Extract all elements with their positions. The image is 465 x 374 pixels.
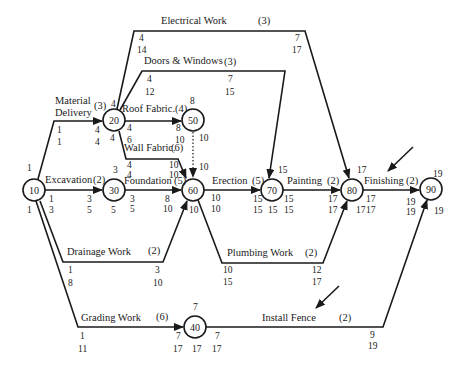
label-material-line1: Material	[55, 96, 91, 107]
time-grading-ls: 11	[78, 345, 87, 355]
label-roof-fabric: Roof Fabric.	[122, 104, 175, 115]
node-20-late: 4	[110, 134, 115, 144]
time-excavation-es: 1	[49, 195, 54, 205]
node-label-40: 40	[190, 322, 200, 333]
time-electrical-lf: 17	[292, 46, 302, 56]
time-fence-es: 7	[215, 332, 220, 342]
pointer-arrow-finishing	[388, 147, 413, 171]
arrow-material-delivery	[38, 121, 102, 179]
node-10-late: 1	[27, 206, 32, 216]
time-roof-lf: 10	[175, 136, 185, 146]
node-label-80: 80	[347, 185, 357, 196]
time-electrical-ef: 7	[295, 34, 300, 44]
time-roof-ef: 8	[176, 124, 181, 134]
node-70-early: 15	[278, 166, 288, 176]
time-roof-es: 4	[127, 124, 132, 134]
node-label-90: 90	[426, 184, 436, 195]
pointer-arrow-install-fence	[316, 286, 339, 308]
time-electrical-ls: 14	[137, 46, 147, 56]
time-finishing-es: 17	[366, 195, 376, 205]
node-60-dummy-time: 10	[199, 163, 209, 173]
time-roof-ls: 6	[127, 136, 132, 146]
time-material-lf: 4	[95, 138, 100, 148]
node-40-early: 7	[193, 303, 198, 313]
node-30-late: 5	[111, 206, 116, 216]
time-doors-es: 4	[147, 75, 152, 85]
label-install-fence: Install Fence	[262, 313, 316, 324]
node-90-early: 19	[433, 170, 443, 180]
label-excavation: Excavation	[45, 175, 92, 186]
node-30-early: 3	[113, 166, 118, 176]
label-painting: Painting	[287, 176, 322, 187]
label-finishing: Finishing	[364, 176, 404, 187]
time-foundation-lf: 10	[163, 205, 173, 215]
duration-material-delivery: (3)	[94, 101, 106, 112]
time-doors-lf: 15	[225, 88, 235, 98]
time-plumbing-ef: 12	[312, 266, 322, 276]
node-40-late: 17	[192, 345, 202, 355]
time-material-ls: 1	[57, 138, 62, 148]
time-drainage-ls: 8	[68, 279, 73, 289]
time-excavation-lf: 5	[87, 206, 92, 216]
time-wall-lf: 10	[169, 171, 179, 181]
time-fence-ef: 9	[370, 331, 375, 341]
time-fence-ls: 17	[212, 345, 222, 355]
time-painting-es: 15	[284, 195, 294, 205]
time-doors-ls: 12	[145, 88, 155, 98]
time-drainage-lf: 10	[153, 279, 163, 289]
duration-drainage-work: (2)	[148, 246, 160, 257]
node-label-30: 30	[109, 185, 119, 196]
time-plumbing-lf: 17	[312, 278, 322, 288]
time-grading-ef: 7	[176, 332, 181, 342]
time-foundation-ls: 5	[130, 205, 135, 215]
duration-doors-windows: (3)	[224, 57, 236, 68]
node-label-10: 10	[29, 185, 39, 196]
time-excavation-ef: 3	[87, 195, 92, 205]
duration-plumbing-work: (2)	[305, 248, 317, 259]
duration-finishing: (2)	[406, 176, 418, 187]
time-erection-ls: 10	[211, 205, 221, 215]
node-80-early: 17	[357, 166, 367, 176]
duration-roof-fabric: (4)	[175, 104, 187, 115]
time-painting-lf: 17	[328, 206, 338, 216]
time-grading-lf: 17	[173, 345, 183, 355]
duration-grading-work: (6)	[156, 312, 168, 323]
time-fence-lf: 19	[368, 342, 378, 352]
node-label-50: 50	[188, 115, 198, 126]
duration-install-fence: (2)	[339, 313, 351, 324]
time-excavation-ls: 3	[49, 206, 54, 216]
time-wall-ls: 4	[127, 171, 132, 181]
label-plumbing-work: Plumbing Work	[227, 248, 293, 259]
node-50-late: 10	[199, 134, 209, 144]
node-50-early: 8	[190, 97, 195, 107]
time-finishing-ls: 17	[366, 206, 376, 216]
time-drainage-ef: 3	[155, 266, 160, 276]
time-doors-ef: 7	[228, 75, 233, 85]
time-grading-es: 1	[80, 332, 85, 342]
time-plumbing-ls: 15	[223, 278, 233, 288]
time-painting-ls: 15	[284, 206, 294, 216]
time-drainage-es: 1	[68, 266, 73, 276]
duration-excavation: (2)	[93, 175, 105, 186]
label-grading-work: Grading Work	[81, 313, 141, 324]
node-label-60: 60	[188, 185, 198, 196]
duration-erection: (5)	[252, 176, 264, 187]
node-20-early: 4	[111, 100, 116, 110]
time-electrical-es: 4	[139, 34, 144, 44]
node-70-late: 15	[268, 206, 278, 216]
time-erection-es: 10	[211, 194, 221, 204]
duration-painting: (2)	[327, 176, 339, 187]
node-label-20: 20	[109, 115, 119, 126]
arrow-grading-work	[36, 201, 183, 327]
duration-electrical-work: (3)	[258, 16, 270, 27]
label-electrical-work: Electrical Work	[161, 16, 227, 27]
time-painting-ef: 17	[328, 195, 338, 205]
label-erection: Erection	[212, 176, 248, 187]
node-80-late: 17	[356, 206, 366, 216]
time-erection-ef: 15	[253, 195, 263, 205]
label-doors-windows: Doors & Windows	[144, 56, 223, 67]
network-diagram: 10 20 30 40 50 60 70 80 90 Electrical Wo…	[0, 0, 465, 374]
node-label-70: 70	[267, 185, 277, 196]
node-90-late: 19	[434, 207, 444, 217]
label-drainage-work: Drainage Work	[67, 247, 131, 258]
